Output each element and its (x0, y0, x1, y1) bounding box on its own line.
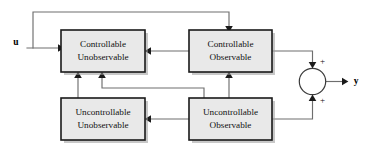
wire-uncontrollable-observable-to-controllable-unobservable (98, 72, 204, 98)
output-label-y: y (354, 76, 359, 86)
wire-uncontrollable-observable-to-uncontrollable-unobservable (145, 115, 189, 123)
wire-uncontrollable-observable-to-controllable-observable (225, 72, 233, 98)
block-label-line2: Observable (210, 52, 252, 62)
wire-uncontrollable-observable-to-sum (272, 95, 316, 119)
block-label-line1: Controllable (80, 39, 126, 49)
block-body (189, 30, 272, 72)
block-label-line2: Unobservable (77, 52, 128, 62)
block-body (61, 98, 145, 140)
block-controllable-observable[interactable]: Controllable Observable (189, 30, 275, 75)
block-body (189, 98, 272, 140)
summing-junction-top-sign: + (320, 56, 325, 66)
wire-sum-to-output-y (326, 78, 349, 86)
summing-junction-bottom-sign: + (320, 95, 325, 105)
block-label-line1: Uncontrollable (75, 107, 130, 117)
block-diagram-canvas: Controllable Unobservable Controllable O… (0, 0, 371, 150)
block-label-line2: Unobservable (77, 120, 128, 130)
summing-junction-circle (299, 68, 325, 94)
wire-uncontrollable-unobservable-to-controllable-unobservable (74, 72, 82, 98)
block-controllable-unobservable[interactable]: Controllable Unobservable (61, 30, 148, 75)
block-body (61, 30, 145, 72)
block-diagram-svg: Controllable Unobservable Controllable O… (0, 0, 371, 150)
wire-controllable-observable-to-sum (272, 51, 316, 68)
wire-controllable-observable-to-controllable-unobservable (145, 47, 189, 55)
block-uncontrollable-observable[interactable]: Uncontrollable Observable (189, 98, 275, 143)
block-label-line2: Observable (210, 120, 252, 130)
block-label-line1: Uncontrollable (203, 107, 258, 117)
input-label-u: u (13, 37, 19, 47)
block-uncontrollable-unobservable[interactable]: Uncontrollable Unobservable (61, 98, 148, 143)
block-label-line1: Controllable (208, 39, 254, 49)
